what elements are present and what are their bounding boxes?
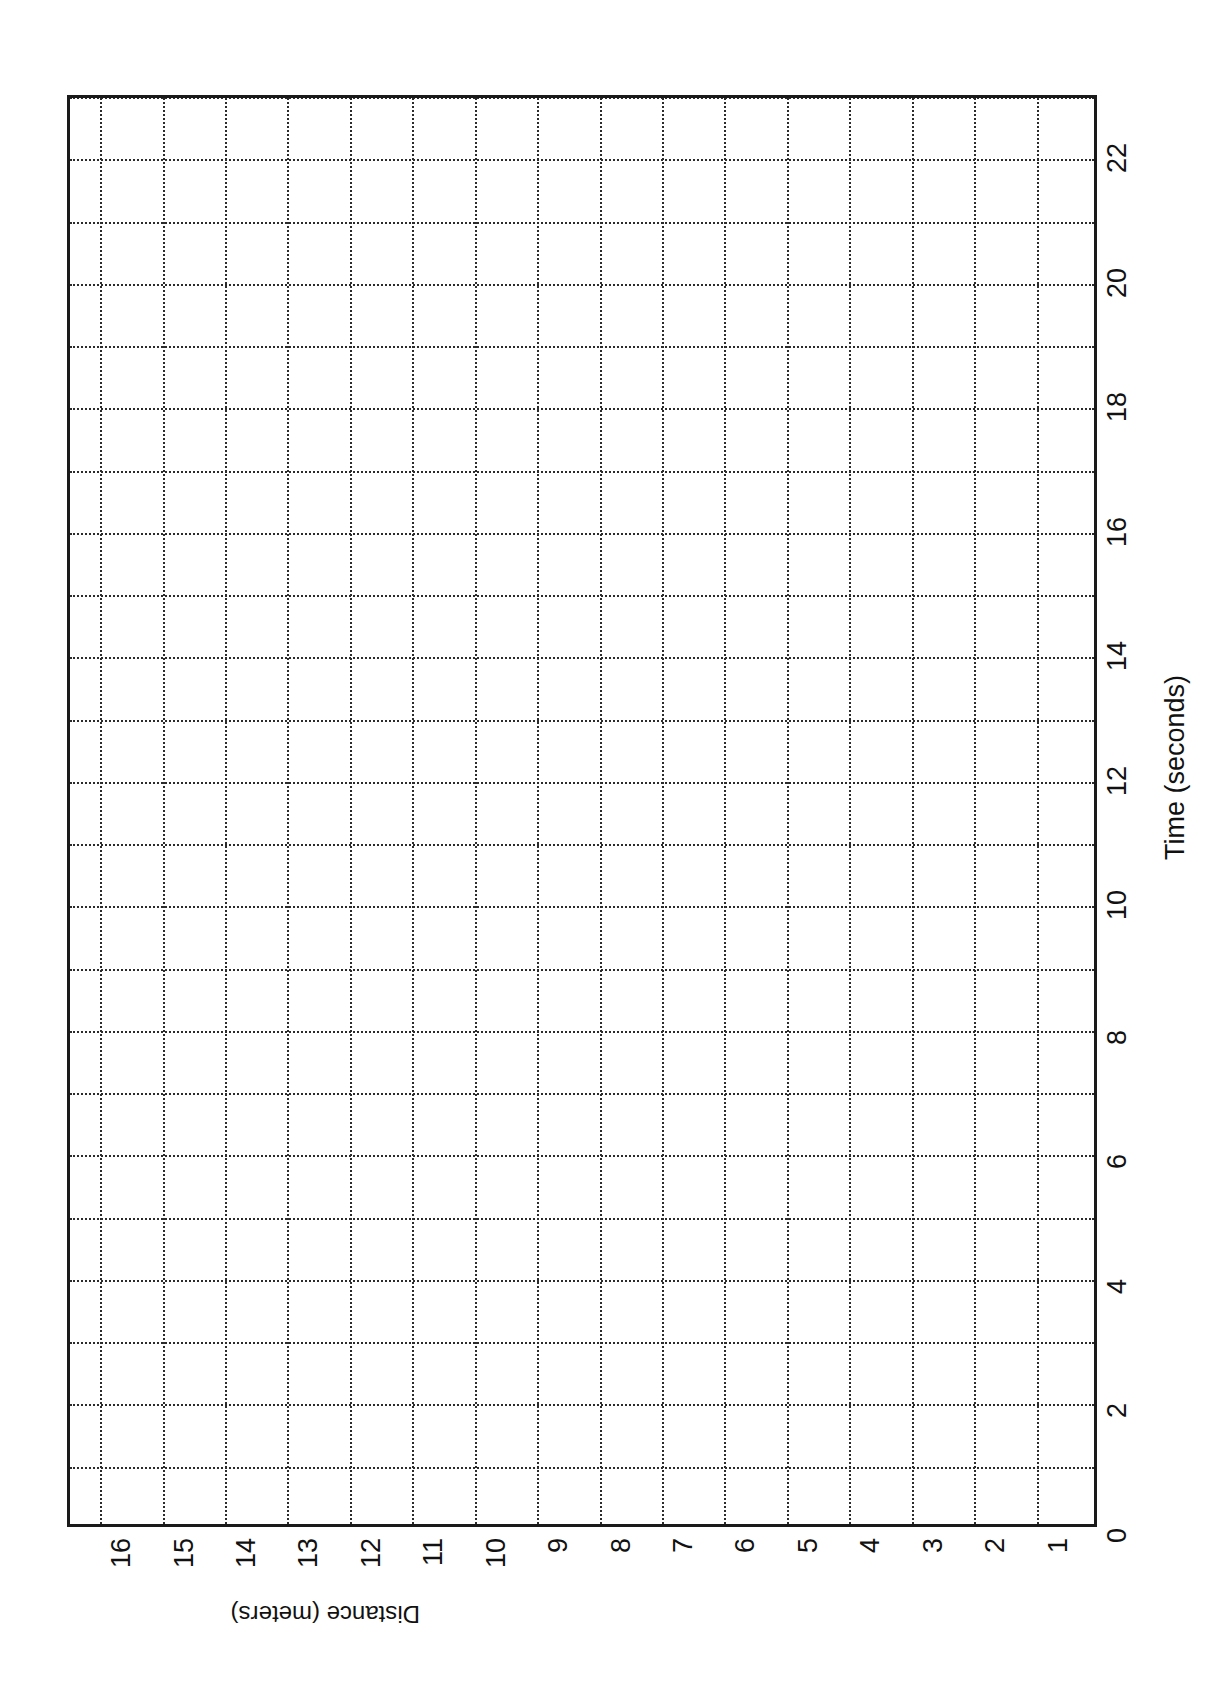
gridline-distance (163, 98, 165, 1524)
time-tick-label: 22 (1104, 113, 1131, 173)
gridline-time (70, 657, 1094, 659)
gridline-time (70, 782, 1094, 784)
time-tick-label: 18 (1104, 362, 1131, 422)
time-tick-label: 10 (1104, 860, 1131, 920)
distance-tick-label: 5 (795, 1538, 822, 1553)
plot-area (67, 95, 1097, 1527)
gridline-distance (225, 98, 227, 1524)
gridline-distance (912, 98, 914, 1524)
gridline-time (70, 98, 1094, 99)
gridline-distance (1037, 98, 1039, 1524)
distance-tick-label: 9 (545, 1538, 572, 1553)
time-tick-label: 12 (1104, 736, 1131, 796)
gridline-time (70, 346, 1094, 348)
time-axis-title: Time (seconds) (1160, 675, 1191, 860)
gridline-time (70, 844, 1094, 846)
gridline-time (70, 720, 1094, 722)
time-tick-label: 8 (1104, 985, 1131, 1045)
gridline-distance (287, 98, 289, 1524)
distance-tick-label: 16 (108, 1538, 135, 1568)
gridlines (70, 98, 1094, 1524)
gridline-distance (724, 98, 726, 1524)
time-tick-label: 6 (1104, 1109, 1131, 1169)
distance-tick-label: 12 (358, 1538, 385, 1568)
distance-tick-label: 13 (295, 1538, 322, 1568)
gridline-distance (350, 98, 352, 1524)
gridline-time (70, 159, 1094, 161)
gridline-time (70, 1342, 1094, 1344)
gridline-time (70, 1093, 1094, 1095)
gridline-distance (100, 98, 102, 1524)
gridline-time (70, 1467, 1094, 1469)
gridline-distance (849, 98, 851, 1524)
distance-tick-label: 1 (1045, 1538, 1072, 1553)
distance-tick-label: 15 (171, 1538, 198, 1568)
time-tick-label: 20 (1104, 238, 1131, 298)
gridline-time (70, 533, 1094, 535)
gridline-time (70, 408, 1094, 410)
distance-tick-label: 3 (920, 1538, 947, 1553)
time-tick-label: 2 (1104, 1358, 1131, 1418)
gridline-time (70, 1404, 1094, 1406)
gridline-distance (974, 98, 976, 1524)
time-tick-label: 0 (1104, 1483, 1131, 1543)
distance-tick-label: 7 (670, 1538, 697, 1553)
gridline-distance (537, 98, 539, 1524)
distance-tick-label: 11 (420, 1538, 447, 1566)
gridline-time (70, 471, 1094, 473)
gridline-time (70, 1031, 1094, 1033)
gridline-time (70, 1218, 1094, 1220)
gridline-time (70, 595, 1094, 597)
time-tick-label: 4 (1104, 1234, 1131, 1294)
gridline-time (70, 222, 1094, 224)
gridline-time (70, 1155, 1094, 1157)
time-tick-label: 14 (1104, 611, 1131, 671)
distance-tick-label: 10 (483, 1538, 510, 1568)
gridline-distance (412, 98, 414, 1524)
distance-axis-title: Distance (meters) (231, 1600, 420, 1628)
time-tick-label: 16 (1104, 487, 1131, 547)
gridline-distance (662, 98, 664, 1524)
graph-page: 0246810121416182022 12345678910111213141… (0, 0, 1208, 1685)
distance-tick-label: 8 (608, 1538, 635, 1553)
distance-tick-label: 4 (857, 1538, 884, 1553)
gridline-time (70, 284, 1094, 286)
gridline-distance (475, 98, 477, 1524)
distance-tick-label: 14 (233, 1538, 260, 1568)
gridline-distance (787, 98, 789, 1524)
distance-tick-label: 6 (732, 1538, 759, 1553)
gridline-time (70, 906, 1094, 908)
gridline-time (70, 969, 1094, 971)
gridline-distance (600, 98, 602, 1524)
distance-tick-label: 2 (982, 1538, 1009, 1553)
gridline-time (70, 1280, 1094, 1282)
